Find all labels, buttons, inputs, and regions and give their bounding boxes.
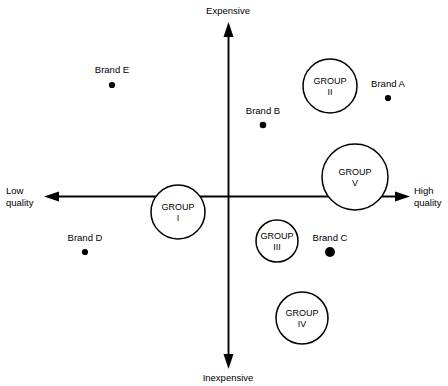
brand-label-b: Brand B <box>246 105 280 116</box>
group-label-ii-word: GROUP <box>313 76 346 86</box>
group-label-v-numeral: V <box>352 178 358 188</box>
brand-label-e: Brand E <box>95 64 129 75</box>
group-circle-i[interactable] <box>151 185 205 239</box>
brand-label-c: Brand C <box>313 232 348 243</box>
brand-point-b[interactable]: Brand B <box>246 105 280 128</box>
axis-label-high-quality-line2: quality <box>414 197 442 208</box>
axis-label-inexpensive: Inexpensive <box>203 372 254 383</box>
group-label-iii-word: GROUP <box>260 231 293 241</box>
brand-label-a: Brand A <box>371 78 405 89</box>
group-cluster-iv[interactable]: GROUP IV <box>276 292 328 344</box>
brand-point-d[interactable]: Brand D <box>68 232 103 255</box>
group-circle-ii[interactable] <box>303 59 357 113</box>
brand-dot-a[interactable] <box>385 95 391 101</box>
group-label-ii-numeral: II <box>327 87 332 97</box>
group-cluster-v[interactable]: GROUP V <box>322 144 388 210</box>
group-circle-v[interactable] <box>322 144 388 210</box>
right-arrow-icon <box>395 192 410 202</box>
group-label-v-word: GROUP <box>338 167 371 177</box>
up-arrow-icon <box>224 22 234 37</box>
axis-label-low-quality-line1: Low <box>6 185 24 196</box>
perceptual-map-canvas: Expensive Inexpensive Low quality High q… <box>0 0 448 386</box>
perceptual-map: Expensive Inexpensive Low quality High q… <box>0 0 448 386</box>
brand-dot-d[interactable] <box>82 249 88 255</box>
group-cluster-iii[interactable]: GROUP III <box>256 220 298 262</box>
brand-dot-e[interactable] <box>109 82 115 88</box>
brand-point-a[interactable]: Brand A <box>371 78 405 101</box>
group-circle-iii[interactable] <box>256 220 298 262</box>
group-cluster-layer: GROUP I GROUP II GROUP III GROUP IV GROU <box>151 59 388 344</box>
group-label-iv-word: GROUP <box>285 308 318 318</box>
brand-point-c[interactable]: Brand C <box>313 232 348 257</box>
down-arrow-icon <box>224 354 234 369</box>
group-label-i-numeral: I <box>177 213 180 223</box>
group-circle-iv[interactable] <box>276 292 328 344</box>
brand-point-e[interactable]: Brand E <box>95 64 129 88</box>
group-label-iii-numeral: III <box>273 242 281 252</box>
brand-label-d: Brand D <box>68 232 103 243</box>
axis-label-high-quality-line1: High <box>414 185 434 196</box>
axis-label-expensive: Expensive <box>206 5 250 16</box>
brand-dot-c[interactable] <box>325 247 335 257</box>
group-cluster-ii[interactable]: GROUP II <box>303 59 357 113</box>
group-cluster-i[interactable]: GROUP I <box>151 185 205 239</box>
group-label-i-word: GROUP <box>161 202 194 212</box>
axis-label-low-quality-line2: quality <box>6 197 34 208</box>
left-arrow-icon <box>44 192 59 202</box>
brand-dot-b[interactable] <box>260 122 267 129</box>
group-label-iv-numeral: IV <box>298 319 307 329</box>
